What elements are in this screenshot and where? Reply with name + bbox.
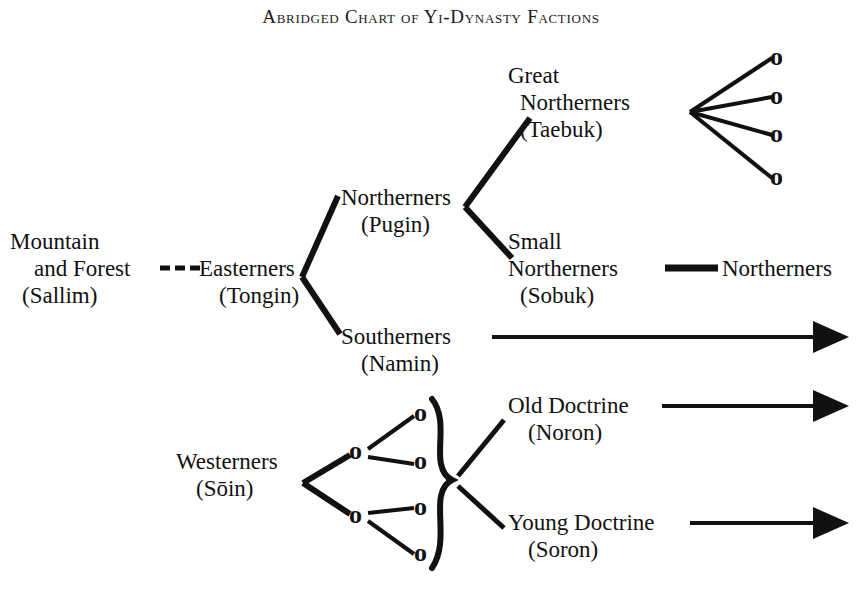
node-sallim-romanization: (Sallim) [10, 282, 130, 309]
terminal-node-taebuk-2: o [770, 81, 783, 112]
node-soron-line1: Young Doctrine [508, 509, 655, 536]
node-northerners-terminal-line1: Northerners [722, 255, 832, 282]
node-tongin-romanization: (Tongin) [199, 282, 299, 309]
node-soron-romanization: (Soron) [508, 536, 655, 563]
circle-node-glyph: o [770, 119, 783, 148]
terminal-node-west-1: o [414, 398, 427, 429]
connector-taebuk-fan [690, 58, 772, 178]
intermediate-node-west-2: o [349, 500, 362, 531]
node-pugin: Northerners (Pugin) [341, 184, 451, 238]
node-soin-line1: Westerners [176, 448, 278, 475]
node-sallim: Mountain and Forest (Sallim) [10, 228, 130, 309]
node-sobuk-romanization: (Sobuk) [508, 282, 618, 309]
node-tongin: Easterners (Tongin) [199, 255, 299, 309]
faction-chart: Abridged Chart of Yi-Dynasty Factions [0, 0, 862, 616]
node-namin: Southerners (Namin) [341, 323, 451, 377]
node-noron-line1: Old Doctrine [508, 392, 629, 419]
node-taebuk: Great Northerners (Taebuk) [508, 62, 630, 143]
node-pugin-romanization: (Pugin) [341, 211, 451, 238]
terminal-node-west-3: o [414, 492, 427, 523]
node-sobuk-line2: Northerners [508, 255, 618, 282]
node-soin: Westerners (Sōin) [176, 448, 278, 502]
node-soin-romanization: (Sōin) [176, 475, 278, 502]
grouping-brace [432, 399, 452, 568]
node-sobuk-line1: Small [508, 228, 618, 255]
terminal-node-taebuk-3: o [770, 119, 783, 150]
terminal-node-taebuk-1: o [770, 42, 783, 73]
terminal-node-taebuk-4: o [770, 162, 783, 193]
node-taebuk-line1: Great [508, 62, 630, 89]
circle-node-glyph: o [414, 446, 427, 475]
node-soron: Young Doctrine (Soron) [508, 509, 655, 563]
node-sobuk: Small Northerners (Sobuk) [508, 228, 618, 309]
circle-node-glyph: o [414, 538, 427, 567]
circle-node-glyph: o [770, 42, 783, 71]
node-namin-line1: Southerners [341, 323, 451, 350]
terminal-node-west-4: o [414, 538, 427, 569]
node-namin-romanization: (Namin) [341, 350, 451, 377]
node-pugin-line1: Northerners [341, 184, 451, 211]
circle-node-glyph: o [349, 436, 362, 465]
intermediate-node-west-1: o [349, 436, 362, 467]
node-taebuk-line2: Northerners [508, 89, 630, 116]
circle-node-glyph: o [414, 492, 427, 521]
node-taebuk-romanization: (Taebuk) [508, 116, 630, 143]
connector-brace-fork [458, 420, 504, 528]
circle-node-glyph: o [770, 162, 783, 191]
circle-node-glyph: o [770, 81, 783, 110]
node-sallim-line1: Mountain [10, 228, 130, 255]
node-noron-romanization: (Noron) [508, 419, 629, 446]
circle-node-glyph: o [349, 500, 362, 529]
circle-node-glyph: o [414, 398, 427, 427]
node-northerners-terminal: Northerners [722, 255, 832, 282]
terminal-node-west-2: o [414, 446, 427, 477]
node-noron: Old Doctrine (Noron) [508, 392, 629, 446]
connector-tongin-fork [302, 196, 340, 334]
node-tongin-line1: Easterners [199, 255, 299, 282]
node-sallim-line2: and Forest [10, 255, 130, 282]
